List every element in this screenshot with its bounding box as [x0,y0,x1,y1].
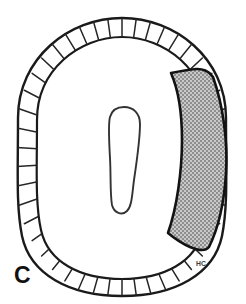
anatomical-ring-diagram [0,0,246,304]
figure-panel-c: C HC [0,0,246,304]
panel-label: C [14,262,31,288]
artist-signature-mark: HC [196,259,206,268]
